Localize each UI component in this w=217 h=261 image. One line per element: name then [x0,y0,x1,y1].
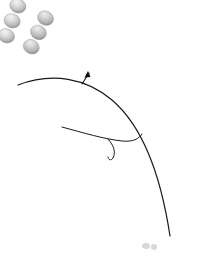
figure-background [0,0,217,261]
illustration-canvas [0,0,217,261]
figure-container: Curved array of ellipsoid cells with bou… [0,0,217,261]
faint-mark [142,243,150,249]
faint-mark [151,244,157,250]
